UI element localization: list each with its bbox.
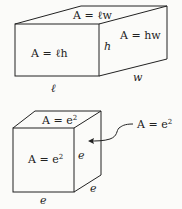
cube-depth-edge-label: e <box>90 182 97 195</box>
surface-area-diagram: A = ℓw A = ℓh A = hw h w ℓ A = e2 A = e2… <box>0 0 182 209</box>
box-side-area-label: A = hw <box>119 29 161 42</box>
box-top-area-label: A = ℓw <box>72 9 112 22</box>
cube-front-area-label: A = e2 <box>27 153 63 166</box>
box-width-label: w <box>133 71 143 84</box>
box-front-area-label: A = ℓh <box>30 47 68 60</box>
box-length-label: ℓ <box>51 82 56 95</box>
callout-arrow <box>90 124 133 141</box>
cube-bottom-edge-label: e <box>40 194 47 207</box>
box-height-label: h <box>104 40 111 53</box>
cube-callout-label: A = e2 <box>136 118 172 131</box>
cube-right-edge-label: e <box>78 149 85 162</box>
cube-top-area-label: A = e2 <box>41 114 77 127</box>
